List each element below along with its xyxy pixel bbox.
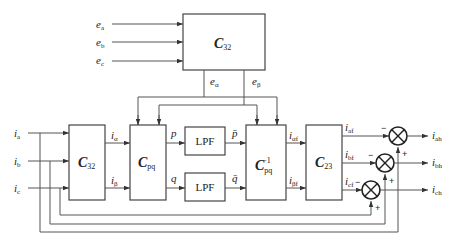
block-lpf-p: LPF [185, 127, 225, 155]
block-c32-voltage: C32 [183, 14, 265, 70]
q-bar-label: q̄ [232, 172, 238, 184]
svg-text:−: − [381, 123, 386, 133]
i-beta-f-label: iβf [289, 174, 299, 188]
output-iah-label: iah [432, 129, 442, 143]
block-cpq-inverse-label: Cpq−1 [255, 156, 272, 175]
current-inputs: ia ib ic [14, 127, 69, 196]
i-cf-label: icf [345, 175, 354, 189]
block-cpq: Cpq [130, 125, 166, 200]
p-bar-label: p̄ [231, 127, 238, 139]
e-beta-label: eβ [252, 75, 261, 89]
i-af-label: iaf [345, 121, 354, 135]
input-eb-label: eb [96, 36, 105, 50]
input-ib-label: ib [14, 155, 21, 169]
i-bf-label: ibf [345, 148, 355, 162]
e-alpha-label: eα [210, 75, 219, 89]
output-ibh-label: ibh [432, 156, 443, 170]
svg-text:LPF: LPF [196, 181, 215, 193]
block-c32-current: C32 [69, 125, 105, 200]
output-ich-label: ich [432, 183, 442, 197]
p-label: p [170, 127, 177, 139]
block-lpf-q: LPF [185, 173, 225, 201]
i-beta-label: iβ [111, 174, 118, 188]
svg-text:+: + [389, 176, 394, 186]
i-alpha-label: iα [111, 129, 118, 143]
input-ia-label: ia [14, 127, 21, 141]
e-alpha-beta-bus: eα eβ [138, 70, 277, 125]
input-ea-label: ea [96, 18, 105, 32]
input-ec-label: ec [96, 54, 104, 68]
svg-text:LPF: LPF [196, 135, 215, 147]
svg-text:−: − [355, 177, 360, 187]
pq-harmonic-detection-diagram: ea eb ec C32 eα eβ ia ib ic C32 [0, 0, 453, 248]
voltage-inputs: ea eb ec [96, 18, 183, 68]
summing-junction-c: − + [355, 177, 380, 213]
svg-text:+: + [375, 203, 380, 213]
input-ic-label: ic [14, 182, 20, 196]
block-cpq-inverse: Cpq−1 [246, 125, 286, 200]
block-c23: C23 [306, 125, 342, 200]
svg-text:+: + [402, 149, 407, 159]
q-label: q [171, 172, 177, 184]
svg-text:−: − [368, 150, 373, 160]
i-alpha-f-label: iαf [289, 129, 299, 143]
